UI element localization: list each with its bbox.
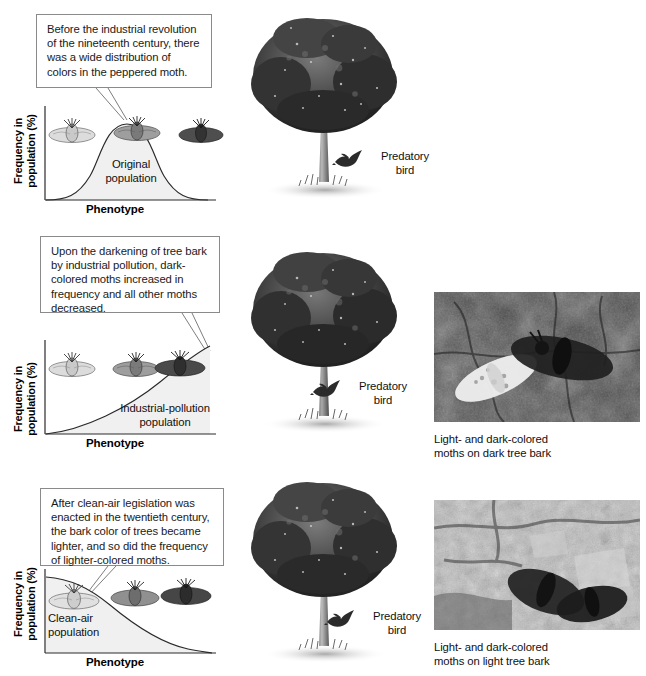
bird-label-line-1: Predatory [359,380,407,392]
moth-specimen-light-panel-3 [46,583,102,615]
callout-box-industrial-pollution: Upon the darkening of tree bark by indus… [40,236,220,313]
photo-moths-on-dark-bark [434,292,640,422]
predatory-bird-label-panel-3: Predatory bird [362,610,432,637]
tree-ground-shadow [263,181,387,199]
y-axis-label-line-2: population (%) [25,114,37,188]
y-axis-label-panel-1: Frequency in population (%) [12,105,37,197]
photo-caption-line-2: moths on light tree bark [434,655,550,667]
y-axis-label-line-2: population (%) [25,362,37,436]
photo-caption-line-2: moths on dark tree bark [434,447,551,459]
curve-label-clean-air-population: Clean-air population [48,612,138,639]
y-axis-label-line-2: population (%) [25,567,37,641]
bird-label-line-2: bird [396,164,414,176]
photo-caption-line-1: Light- and dark-colored [434,641,548,653]
callout-text: Upon the darkening of tree bark by indus… [51,245,207,314]
curve-label-line-2: population [105,172,156,184]
x-axis-label-panel-3: Phenotype [60,656,170,668]
y-axis-label-line-1: Frequency in [12,571,24,637]
predatory-bird-icon-panel-1 [332,148,364,174]
moth-specimen-dark-panel-2 [152,350,208,382]
curve-label-line-1: Clean-air [48,612,93,624]
tree-canopy [251,482,397,597]
x-axis-label-panel-2: Phenotype [60,437,170,449]
curve-label-line-2: population [139,416,190,428]
predatory-bird-label-panel-2: Predatory bird [348,380,418,407]
curve-label-line-1: Original [112,158,150,170]
x-axis-label-text: Phenotype [86,203,144,215]
bird-label-line-2: bird [374,394,392,406]
curve-label-industrial-pollution-population: Industrial-pollution population [114,402,216,429]
y-axis-label-panel-2: Frequency in population (%) [12,353,37,445]
y-axis-label-line-1: Frequency in [12,366,24,432]
tree-canopy [251,18,397,133]
callout-box-pre-industrial: Before the industrial revolution of the … [36,14,212,88]
tree-ground-shadow [263,645,387,663]
photo-moths-on-light-bark [434,500,640,630]
x-axis-label-text: Phenotype [86,437,144,449]
tree-illustration-panel-3 [245,478,405,668]
moth-specimen-intermediate-panel-3 [108,580,162,612]
x-axis-label-text: Phenotype [86,656,144,668]
y-axis-label-line-1: Frequency in [12,118,24,184]
curve-label-original-population: Original population [86,158,176,185]
moth-specimen-intermediate-panel-1 [111,116,163,146]
x-axis-label-panel-1: Phenotype [60,203,170,215]
predatory-bird-icon-panel-3 [324,608,356,634]
bird-label-line-1: Predatory [373,610,421,622]
moth-specimen-light-panel-2 [46,352,98,382]
tree-ground-shadow [263,415,387,433]
photo-caption-line-1: Light- and dark-colored [434,433,548,445]
moth-specimen-dark-panel-3 [158,578,214,610]
predatory-bird-label-panel-1: Predatory bird [370,150,440,177]
moth-specimen-dark-panel-1 [175,118,227,148]
bird-label-line-2: bird [388,624,406,636]
curve-label-line-2: population [48,626,99,638]
tree-canopy [251,252,397,367]
moth-specimen-light-panel-1 [46,118,98,148]
callout-text: Before the industrial revolution of the … [47,23,199,78]
curve-label-line-1: Industrial-pollution [120,402,210,414]
predatory-bird-icon-panel-2 [310,378,342,404]
callout-text: After clean-air legislation was enacted … [51,497,210,566]
tree-illustration-panel-2 [245,248,405,438]
photo-caption-dark-bark: Light- and dark-colored moths on dark tr… [434,432,634,460]
y-axis-label-panel-3: Frequency in population (%) [12,558,37,650]
bird-label-line-1: Predatory [381,150,429,162]
callout-box-clean-air: After clean-air legislation was enacted … [40,488,224,566]
photo-caption-light-bark: Light- and dark-colored moths on light t… [434,640,634,668]
